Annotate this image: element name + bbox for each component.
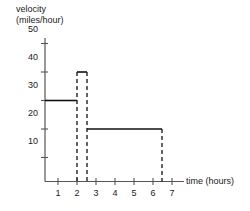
velocity-step-series <box>45 72 162 129</box>
plot-area <box>0 0 250 211</box>
transition-dashed-lines <box>77 72 162 182</box>
velocity-time-chart: velocity (miles/hour) time (hours) 10 20… <box>0 0 250 211</box>
